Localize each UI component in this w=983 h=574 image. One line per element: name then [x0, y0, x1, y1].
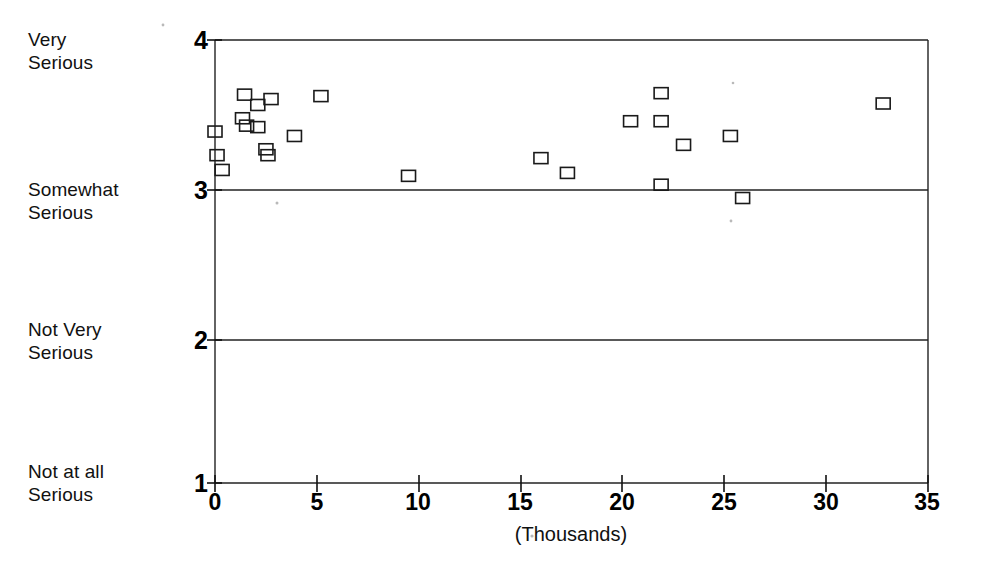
- data-point-marker: [736, 193, 750, 204]
- scan-speck: [730, 220, 733, 223]
- plot-area: [0, 0, 983, 574]
- data-point-marker: [314, 91, 328, 102]
- data-point-marker: [251, 99, 265, 110]
- data-point-marker: [654, 179, 668, 190]
- scatter-chart-figure: Very Serious Somewhat Serious Not Very S…: [0, 0, 983, 574]
- scan-speck: [732, 82, 735, 85]
- data-point-marker: [287, 130, 301, 141]
- data-point-marker: [876, 98, 890, 109]
- data-point-marker: [654, 116, 668, 127]
- data-point-group: [208, 88, 890, 204]
- scan-speck: [276, 202, 279, 205]
- data-point-marker: [264, 94, 278, 105]
- chart-frame: [162, 24, 928, 538]
- data-point-marker: [624, 116, 638, 127]
- data-point-marker: [215, 164, 229, 175]
- scan-speck: [530, 534, 533, 537]
- data-point-marker: [402, 170, 416, 181]
- scan-speck: [162, 24, 165, 27]
- data-point-marker: [238, 89, 252, 100]
- data-point-marker: [534, 153, 548, 164]
- data-point-marker: [236, 113, 250, 124]
- data-point-marker: [723, 130, 737, 141]
- data-point-marker: [677, 139, 691, 150]
- data-point-marker: [210, 150, 224, 161]
- data-point-marker: [560, 167, 574, 178]
- data-point-marker: [654, 88, 668, 99]
